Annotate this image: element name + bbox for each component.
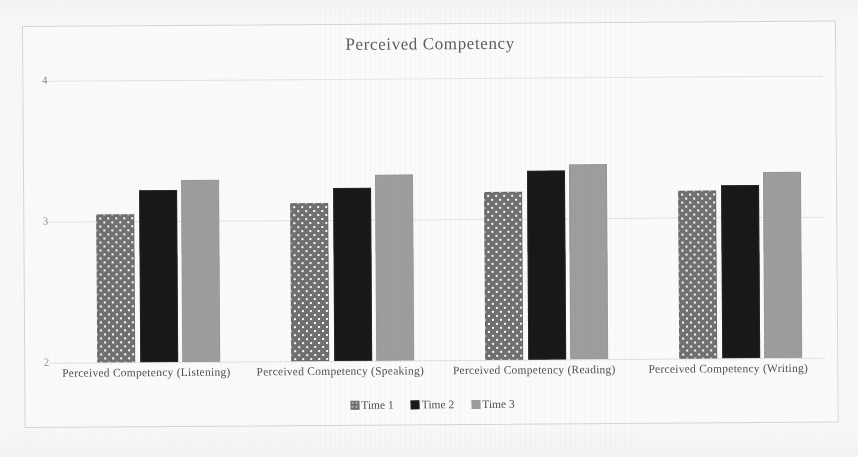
plot-area: [47, 42, 825, 363]
bar-group-writing: [629, 42, 825, 359]
x-axis-label-speaking: Perceived Competency (Speaking): [243, 364, 437, 377]
chart-inner: Perceived Competency 4 3 2: [23, 22, 840, 429]
bar-group-speaking: [241, 44, 437, 361]
bar-writing-time2: [721, 185, 760, 359]
scan-shadow-bottom: [0, 427, 858, 457]
y-axis-tick-4: 4: [29, 74, 47, 86]
legend-item-time1: Time 1: [350, 399, 394, 411]
bar-group-listening: [47, 46, 243, 363]
x-axis-label-writing: Perceived Competency (Writing): [631, 362, 825, 375]
bar-speaking-time1: [290, 203, 329, 361]
legend-label-time1: Time 1: [361, 399, 394, 411]
legend-item-time3: Time 3: [471, 398, 515, 410]
legend-swatch-time3-icon: [471, 399, 480, 408]
chart-frame: Perceived Competency 4 3 2: [22, 21, 839, 428]
bar-speaking-time2: [333, 187, 372, 361]
chart-legend: Time 1 Time 2 Time 3: [25, 396, 839, 413]
x-axis-label-reading: Perceived Competency (Reading): [437, 363, 631, 376]
bar-reading-time3: [569, 165, 608, 360]
legend-swatch-time1-icon: [350, 400, 359, 409]
legend-label-time2: Time 2: [422, 398, 455, 410]
bar-writing-time1: [678, 191, 717, 359]
bar-group-reading: [435, 43, 631, 360]
y-axis-tick-3: 3: [30, 215, 48, 227]
bar-reading-time1: [484, 192, 523, 360]
scanned-page: Perceived Competency 4 3 2: [0, 0, 858, 457]
bar-listening-time2: [139, 190, 178, 362]
legend-swatch-time2-icon: [411, 400, 420, 409]
y-axis-tick-2: 2: [31, 356, 49, 368]
x-axis-label-listening: Perceived Competency (Listening): [49, 366, 243, 379]
legend-item-time2: Time 2: [411, 398, 455, 410]
legend-label-time3: Time 3: [482, 398, 515, 410]
bar-listening-time3: [181, 180, 220, 362]
bar-speaking-time3: [375, 174, 414, 360]
bar-reading-time2: [527, 170, 566, 359]
bar-listening-time1: [96, 214, 135, 362]
x-axis-category-labels: Perceived Competency (Listening) Perceiv…: [49, 362, 825, 393]
bar-writing-time3: [763, 172, 802, 358]
